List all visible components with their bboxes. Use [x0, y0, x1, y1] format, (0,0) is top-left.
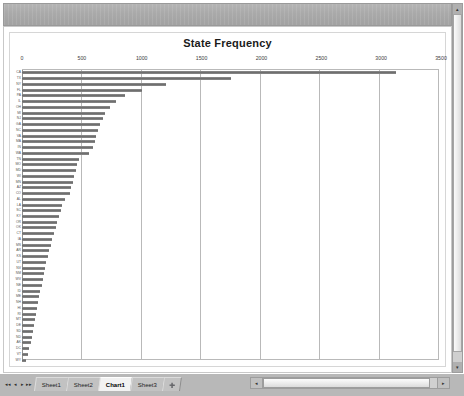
- first-sheet-icon[interactable]: ◂◂: [5, 382, 11, 387]
- vertical-scroll-track[interactable]: [453, 14, 462, 362]
- bar[interactable]: [22, 140, 95, 143]
- bar[interactable]: [22, 135, 96, 138]
- bar-row[interactable]: WY: [22, 359, 438, 362]
- next-sheet-icon[interactable]: ▸: [19, 382, 25, 387]
- bar-row[interactable]: NY: [22, 83, 438, 86]
- bar-row[interactable]: OH: [22, 106, 438, 109]
- bar[interactable]: [22, 301, 38, 304]
- bar[interactable]: [22, 272, 44, 275]
- bar[interactable]: [22, 244, 51, 247]
- bar-row[interactable]: LA: [22, 204, 438, 207]
- bar-row[interactable]: NE: [22, 284, 438, 287]
- bar-row[interactable]: AR: [22, 249, 438, 252]
- sheet-nav-buttons[interactable]: ◂◂ ◂ ▸ ▸▸: [3, 377, 35, 391]
- bar-row[interactable]: AZ: [22, 186, 438, 189]
- bar[interactable]: [22, 192, 70, 195]
- bar-row[interactable]: TN: [22, 158, 438, 161]
- bar[interactable]: [22, 117, 103, 120]
- bar-row[interactable]: AL: [22, 198, 438, 201]
- bar-row[interactable]: SD: [22, 330, 438, 333]
- bar-row[interactable]: IL: [22, 100, 438, 103]
- sheet-tab-chart1[interactable]: Chart1: [98, 377, 133, 391]
- bar-row[interactable]: ND: [22, 336, 438, 339]
- horizontal-scroll-thumb[interactable]: [263, 378, 430, 388]
- scroll-right-icon[interactable]: ▸: [437, 378, 449, 388]
- bar[interactable]: [22, 175, 74, 178]
- bar-row[interactable]: WI: [22, 175, 438, 178]
- bar[interactable]: [22, 226, 56, 229]
- bar-row[interactable]: IN: [22, 146, 438, 149]
- bar-row[interactable]: DE: [22, 324, 438, 327]
- bar[interactable]: [22, 71, 396, 74]
- bar[interactable]: [22, 146, 93, 149]
- bar-row[interactable]: CO: [22, 192, 438, 195]
- bar[interactable]: [22, 204, 62, 207]
- vertical-scroll-thumb[interactable]: [453, 14, 462, 352]
- bar[interactable]: [22, 249, 49, 252]
- bar[interactable]: [22, 295, 39, 298]
- last-sheet-icon[interactable]: ▸▸: [26, 382, 32, 387]
- bar[interactable]: [22, 129, 98, 132]
- bar-row[interactable]: MO: [22, 163, 438, 166]
- bar[interactable]: [22, 347, 29, 350]
- chart-object-frame[interactable]: State Frequency 050010001500200025003000…: [9, 32, 446, 367]
- bar-row[interactable]: MI: [22, 112, 438, 115]
- bar-row[interactable]: WV: [22, 278, 438, 281]
- bar[interactable]: [22, 261, 46, 264]
- bar-row[interactable]: HI: [22, 307, 438, 310]
- bar-row[interactable]: SC: [22, 209, 438, 212]
- bar[interactable]: [22, 77, 231, 80]
- bar-row[interactable]: WA: [22, 152, 438, 155]
- sheet-tab-sheet3[interactable]: Sheet3: [130, 377, 165, 391]
- bar-row[interactable]: NH: [22, 301, 438, 304]
- bar[interactable]: [22, 307, 37, 310]
- bar-row[interactable]: VT: [22, 353, 438, 356]
- bar-row[interactable]: MA: [22, 140, 438, 143]
- bar-row[interactable]: UT: [22, 261, 438, 264]
- bar[interactable]: [22, 313, 36, 316]
- bar-row[interactable]: NJ: [22, 117, 438, 120]
- bar[interactable]: [22, 336, 32, 339]
- scroll-down-icon[interactable]: ▾: [453, 362, 462, 372]
- bar[interactable]: [22, 353, 28, 356]
- bar[interactable]: [22, 341, 31, 344]
- bar[interactable]: [22, 181, 73, 184]
- bar-row[interactable]: MT: [22, 318, 438, 321]
- bar[interactable]: [22, 324, 34, 327]
- bar[interactable]: [22, 100, 116, 103]
- scroll-up-icon[interactable]: ▴: [453, 4, 462, 14]
- bar[interactable]: [22, 221, 57, 224]
- bar-row[interactable]: NM: [22, 272, 438, 275]
- bar[interactable]: [22, 267, 45, 270]
- bar-row[interactable]: TX: [22, 77, 438, 80]
- vertical-scrollbar[interactable]: ▴ ▾: [452, 3, 463, 373]
- bar[interactable]: [22, 209, 61, 212]
- bar[interactable]: [22, 215, 59, 218]
- bar[interactable]: [22, 255, 48, 258]
- bar-row[interactable]: RI: [22, 313, 438, 316]
- bar-row[interactable]: FL: [22, 89, 438, 92]
- bar-row[interactable]: NC: [22, 129, 438, 132]
- bar[interactable]: [22, 106, 110, 109]
- sheet-tab-sheet2[interactable]: Sheet2: [66, 377, 101, 391]
- bar[interactable]: [22, 284, 42, 287]
- prev-sheet-icon[interactable]: ◂: [12, 382, 18, 387]
- horizontal-scrollbar[interactable]: ◂ ▸: [250, 377, 450, 389]
- bar-row[interactable]: MN: [22, 181, 438, 184]
- bar-row[interactable]: CT: [22, 232, 438, 235]
- bar[interactable]: [22, 152, 89, 155]
- bar-row[interactable]: ID: [22, 290, 438, 293]
- bar[interactable]: [22, 112, 105, 115]
- bar-row[interactable]: KS: [22, 255, 438, 258]
- bar-row[interactable]: IA: [22, 238, 438, 241]
- bar-row[interactable]: OK: [22, 226, 438, 229]
- bar[interactable]: [22, 278, 43, 281]
- bar-row[interactable]: OR: [22, 221, 438, 224]
- bar[interactable]: [22, 163, 77, 166]
- bar-series[interactable]: CATXNYFLPAILOHMINJGANCVAMAINWATNMOMDWIMN…: [22, 70, 438, 359]
- bar[interactable]: [22, 169, 76, 172]
- bar[interactable]: [22, 94, 125, 97]
- bar[interactable]: [22, 238, 52, 241]
- bar[interactable]: [22, 359, 26, 362]
- bar-row[interactable]: AK: [22, 341, 438, 344]
